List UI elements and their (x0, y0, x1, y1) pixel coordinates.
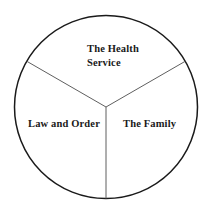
pie-slice-label-health-service: The Health Service (87, 42, 139, 69)
pie-slice-label-law-and-order: Law and Order (28, 117, 100, 131)
pie-chart-figure: The Health Service Law and Order The Fam… (0, 0, 210, 215)
pie-chart-graphic (0, 0, 210, 215)
pie-slice-label-the-family: The Family (123, 117, 176, 131)
